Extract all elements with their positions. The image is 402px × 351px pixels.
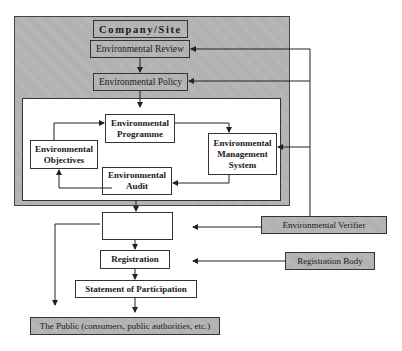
connector-lines <box>0 0 402 351</box>
